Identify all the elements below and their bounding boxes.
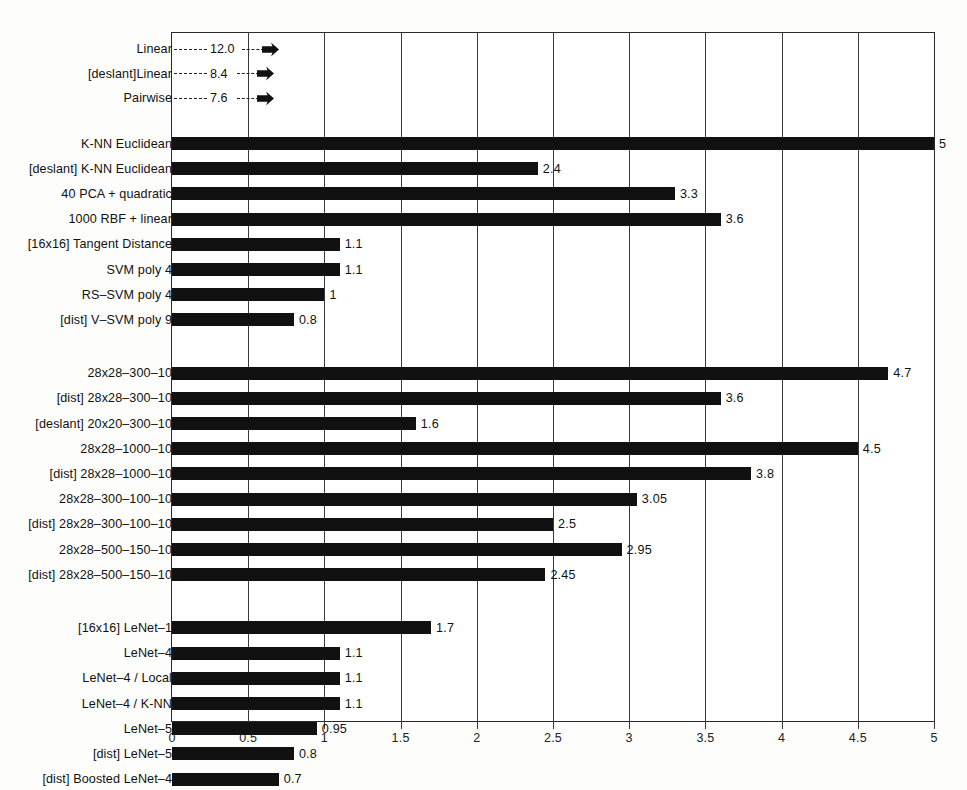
bar	[172, 263, 340, 276]
bar	[172, 162, 538, 175]
bar-value-label: 1.1	[345, 644, 363, 662]
bar	[172, 773, 279, 786]
row-label: [16x16] Tangent Distance	[0, 233, 172, 255]
bar	[172, 187, 675, 200]
offscale-row: Linear12.0	[0, 38, 967, 60]
bar-value-label: 0.8	[299, 745, 317, 763]
offscale-row: Pairwise7.6	[0, 87, 967, 109]
bar-value-label: 0.7	[284, 770, 302, 788]
row-label: Linear	[0, 38, 172, 60]
bar-value-label: 3.05	[642, 490, 667, 508]
row-label: [dist] LeNet–5	[0, 743, 172, 765]
offscale-value: 8.4	[210, 64, 228, 84]
bar	[172, 747, 294, 760]
row-label: 40 PCA + quadratic	[0, 183, 172, 205]
bar-value-label: 2.4	[543, 160, 561, 178]
row-label: 28x28–1000–10	[0, 438, 172, 460]
bar-value-label: 1	[329, 286, 336, 304]
row-label: [dist] 28x28–300–100–10	[0, 513, 172, 535]
bar-row: [dist] 28x28–1000–103.8	[0, 463, 967, 485]
arrow-dash-right	[242, 49, 264, 50]
bar-row: LeNet–4 / Local1.1	[0, 667, 967, 689]
arrow-head-icon	[257, 66, 274, 81]
bar-row: 28x28–300–100–103.05	[0, 488, 967, 510]
bar-row: SVM poly 41.1	[0, 259, 967, 281]
bar-row: [dist] 28x28–500–150–102.45	[0, 564, 967, 586]
bar-row: [16x16] LeNet–11.7	[0, 617, 967, 639]
bar-value-label: 0.8	[299, 311, 317, 329]
bar	[172, 392, 721, 405]
bar	[172, 722, 317, 735]
arrow-dash-left	[174, 73, 207, 74]
bar-row: [dist] V–SVM poly 90.8	[0, 309, 967, 331]
row-label: LeNet–4	[0, 642, 172, 664]
row-label: [dist] V–SVM poly 9	[0, 309, 172, 331]
bar-row: 28x28–1000–104.5	[0, 438, 967, 460]
row-label: 28x28–300–100–10	[0, 488, 172, 510]
arrow-dash-left	[174, 49, 207, 50]
bar	[172, 288, 324, 301]
bar-value-label: 4.5	[863, 440, 881, 458]
bar	[172, 568, 545, 581]
bar-value-label: 5	[939, 135, 946, 153]
arrow-dash-right	[237, 98, 259, 99]
bar-value-label: 1.1	[345, 235, 363, 253]
bar-row: K-NN Euclidean5	[0, 133, 967, 155]
arrow-head-icon	[262, 42, 279, 57]
bar-value-label: 2.45	[550, 566, 575, 584]
bar-row: 28x28–300–104.7	[0, 362, 967, 384]
bar-row: [deslant] K-NN Euclidean2.4	[0, 158, 967, 180]
bar	[172, 647, 340, 660]
row-label: LeNet–4 / K-NN	[0, 693, 172, 715]
row-label: SVM poly 4	[0, 259, 172, 281]
bar	[172, 672, 340, 685]
bar	[172, 137, 934, 150]
bar-row: [dist] Boosted LeNet–40.7	[0, 768, 967, 790]
bar	[172, 442, 858, 455]
bar-row: 28x28–500–150–102.95	[0, 539, 967, 561]
bar-row: LeNet–41.1	[0, 642, 967, 664]
row-label: LeNet–4 / Local	[0, 667, 172, 689]
bar-value-label: 3.6	[726, 389, 744, 407]
bar-value-label: 1.1	[345, 695, 363, 713]
bar-value-label: 0.95	[322, 720, 347, 738]
row-label: [dist] Boosted LeNet–4	[0, 768, 172, 790]
row-label: [dist] 28x28–300–10	[0, 387, 172, 409]
bar	[172, 417, 416, 430]
row-label: K-NN Euclidean	[0, 133, 172, 155]
bar	[172, 518, 553, 531]
row-label: 1000 RBF + linear	[0, 208, 172, 230]
bar-value-label: 4.7	[893, 364, 911, 382]
row-label: [deslant] 20x20–300–10	[0, 413, 172, 435]
offscale-row: [deslant]Linear8.4	[0, 63, 967, 85]
bar-row: [dist] 28x28–300–103.6	[0, 387, 967, 409]
bar-row: [dist] 28x28–300–100–102.5	[0, 513, 967, 535]
bar-row: [dist] LeNet–50.8	[0, 743, 967, 765]
bar	[172, 467, 751, 480]
offscale-value: 12.0	[210, 39, 235, 59]
row-label: [deslant]Linear	[0, 63, 172, 85]
bar-row: 1000 RBF + linear3.6	[0, 208, 967, 230]
bar-row: LeNet–50.95	[0, 718, 967, 740]
bar	[172, 697, 340, 710]
bar	[172, 493, 637, 506]
bar-row: [deslant] 20x20–300–101.6	[0, 413, 967, 435]
bar-value-label: 2.5	[558, 515, 576, 533]
row-label: [dist] 28x28–1000–10	[0, 463, 172, 485]
bar-value-label: 3.8	[756, 465, 774, 483]
bar	[172, 238, 340, 251]
bar-value-label: 2.95	[627, 541, 652, 559]
bar-value-label: 3.6	[726, 210, 744, 228]
bar	[172, 213, 721, 226]
row-label: LeNet–5	[0, 718, 172, 740]
offscale-value: 7.6	[210, 88, 228, 108]
bar-value-label: 1.1	[345, 669, 363, 687]
row-label: 28x28–300–10	[0, 362, 172, 384]
arrow-head-icon	[257, 91, 274, 106]
bar-row: [16x16] Tangent Distance1.1	[0, 233, 967, 255]
row-label: Pairwise	[0, 87, 172, 109]
offscale-arrow: 8.4	[172, 63, 262, 85]
bar-row: 40 PCA + quadratic3.3	[0, 183, 967, 205]
bar-value-label: 1.1	[345, 261, 363, 279]
